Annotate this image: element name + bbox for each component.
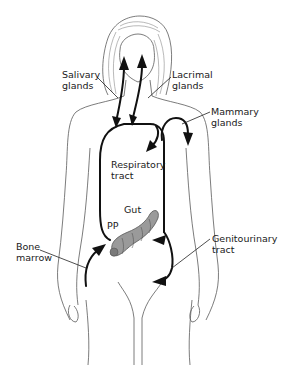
label-pp: PP [107, 220, 119, 231]
gut-intestine [110, 211, 158, 256]
label-genitourinary: Genitourinary [212, 233, 278, 244]
hair-outline [103, 16, 172, 95]
gut-arrow [152, 235, 166, 245]
label-respiratory: Respiratory [111, 159, 166, 170]
lacrimal-arrow [132, 66, 142, 122]
label-gut: Gut [124, 204, 141, 215]
svg-text:glands: glands [211, 117, 243, 128]
svg-text:tract: tract [212, 244, 235, 255]
label-salivary: Salivary [62, 69, 100, 80]
left-shoulder-arm [58, 96, 125, 320]
label-lacrimal: Lacrimal [172, 69, 213, 80]
label-mammary: Mammary [211, 106, 259, 117]
mucosal-immune-diagram: Salivary glands Lacrimal glands Mammary … [0, 0, 285, 365]
genitourinary-arrow [152, 276, 166, 286]
bone-marrow-arrow [86, 250, 99, 286]
svg-text:glands: glands [62, 80, 94, 91]
label-bone-marrow: Bone [16, 241, 40, 252]
svg-text:marrow: marrow [16, 252, 52, 263]
legs-outline [86, 300, 89, 365]
svg-text:tract: tract [111, 170, 134, 181]
mammary-arrow [162, 118, 188, 140]
face-outline [120, 34, 155, 82]
salivary-arrow [116, 66, 124, 122]
svg-text:glands: glands [172, 80, 204, 91]
